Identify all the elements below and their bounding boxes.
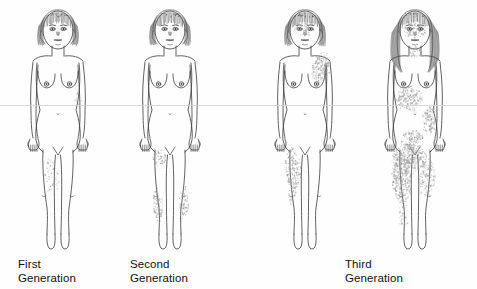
figures-group [0,0,477,258]
subject-1 [28,10,89,249]
subject-3 [275,10,336,249]
lesion-patch-right-thigh-inner [43,157,61,194]
lesion-patch-right-shin [151,187,164,222]
lesion-patch-right-thigh [283,146,303,191]
caption-second-generation: Second Generation [130,258,188,285]
caption-third-generation: Third Generation [345,258,403,285]
subject-2 [140,10,201,249]
caption-first-generation: First Generation [18,258,76,285]
lesion-patch-chest-upper [395,86,423,114]
lesion-patch-left-thigh [418,157,438,199]
illustration-canvas: First Generation Second Generation Third… [0,0,477,289]
lesion-patch-left-shin [177,186,190,224]
subject-4 [385,10,446,249]
